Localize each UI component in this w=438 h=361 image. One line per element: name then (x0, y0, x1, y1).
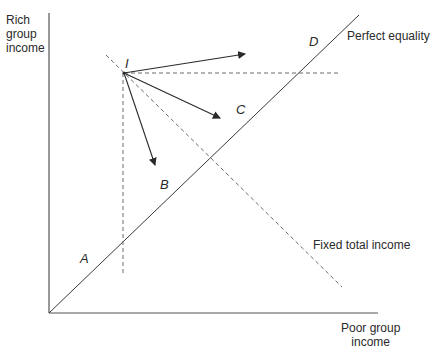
point-label-i: I (125, 57, 129, 71)
x-axis-label-line: income (341, 335, 400, 349)
perfect-equality-line (49, 15, 359, 313)
point-label-a: A (80, 252, 89, 266)
arrow-toward-c (124, 73, 220, 118)
diagram-canvas (0, 0, 438, 361)
arrow-up-right (124, 54, 245, 73)
fixed-total-income-label: Fixed total income (313, 238, 410, 252)
x-axis-label-line: Poor group (341, 321, 400, 335)
x-axis-label: Poor group income (341, 321, 400, 349)
perfect-equality-label: Perfect equality (347, 29, 430, 43)
point-label-d: D (309, 35, 318, 49)
y-axis-label-line: income (6, 41, 45, 55)
point-label-c: C (236, 103, 245, 117)
point-label-b: B (160, 178, 169, 192)
arrow-toward-b (124, 73, 155, 165)
y-axis-label: Rich group income (6, 13, 45, 55)
y-axis-label-line: Rich (6, 13, 45, 27)
fixed-total-income-line (106, 55, 342, 287)
point-i-dot (123, 72, 126, 75)
y-axis-label-line: group (6, 27, 45, 41)
